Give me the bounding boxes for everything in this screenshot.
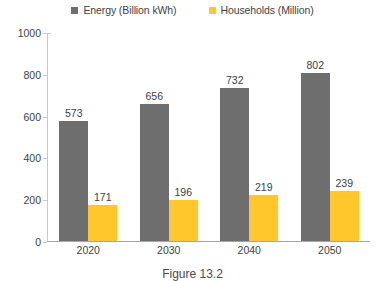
x-axis-label: 2040 [209,244,290,256]
bar-value-label: 732 [226,74,244,86]
y-tick-mark [43,33,47,34]
x-axis-label: 2020 [48,244,129,256]
y-tick-label: 400 [23,152,41,164]
y-tick-label: 800 [23,69,41,81]
bar-value-label: 171 [94,191,112,203]
bar-group: 732219 [209,33,290,241]
bar: 732 [220,88,249,241]
y-tick-mark [43,75,47,76]
legend-label-energy: Energy (Billion kWh) [83,4,176,16]
bar: 239 [330,191,359,241]
bar-value-label: 196 [174,186,192,198]
x-axis-label: 2050 [290,244,371,256]
bar: 196 [169,200,198,241]
figure-caption: Figure 13.2 [0,267,385,281]
legend-item-households: Households (Million) [209,4,314,16]
y-tick-label: 200 [23,194,41,206]
grouped-bar-chart: Energy (Billion kWh) Households (Million… [0,0,385,281]
y-tick-mark [43,117,47,118]
y-tick-label: 600 [23,111,41,123]
bar-groups: 573171656196732219802239 [48,33,370,241]
bar-group: 573171 [48,33,129,241]
x-axis-label: 2030 [129,244,210,256]
bar-group: 802239 [290,33,371,241]
bar-group: 656196 [129,33,210,241]
legend-item-energy: Energy (Billion kWh) [71,4,176,16]
bar-value-label: 656 [145,90,163,102]
bar: 171 [88,205,117,241]
bar-value-label: 239 [335,177,353,189]
y-tick-mark [43,158,47,159]
legend-label-households: Households (Million) [221,4,314,16]
bar-value-label: 573 [65,107,83,119]
y-tick-mark [43,200,47,201]
y-tick-label: 0 [35,236,41,248]
legend-swatch-energy-icon [71,7,78,14]
y-tick-mark [43,242,47,243]
x-axis-labels: 2020203020402050 [48,244,370,256]
bar-value-label: 219 [255,181,273,193]
bar: 573 [59,121,88,241]
bar: 656 [140,104,169,241]
chart-legend: Energy (Billion kWh) Households (Million… [0,4,385,16]
plot-area: 10008006004002000 5731716561967322198022… [47,33,370,242]
x-axis-line [47,241,370,242]
bar: 802 [301,73,330,241]
bar-value-label: 802 [306,59,324,71]
legend-swatch-households-icon [209,7,216,14]
y-tick-label: 1000 [18,27,41,39]
bar: 219 [249,195,278,241]
